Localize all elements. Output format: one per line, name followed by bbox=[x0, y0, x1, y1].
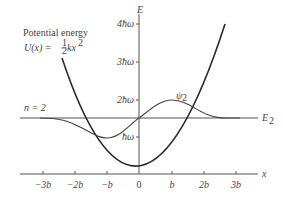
svg-text:−3b: −3b bbox=[35, 179, 52, 190]
svg-text:2: 2 bbox=[269, 115, 274, 126]
svg-text:−b: −b bbox=[101, 179, 113, 190]
svg-text:kx: kx bbox=[67, 42, 76, 53]
x-axis-label: x bbox=[261, 168, 267, 179]
svg-text:4ħω: 4ħω bbox=[117, 18, 134, 29]
potential-curve bbox=[62, 24, 225, 166]
x-tick-labels: −3b −2b −b 0 b 2b 3b bbox=[35, 179, 241, 190]
e-axis-label: E bbox=[136, 4, 143, 15]
y-tick-labels: ħω 2ħω 3ħω 4ħω bbox=[116, 18, 134, 142]
svg-text:2: 2 bbox=[182, 92, 187, 103]
harmonic-oscillator-diagram: Potential energy U(x) = 1 2 kx 2 n = 2 ψ… bbox=[0, 0, 283, 206]
potential-formula: U(x) = 1 2 kx 2 bbox=[24, 37, 83, 56]
svg-text:ħω: ħω bbox=[122, 131, 134, 142]
svg-text:0: 0 bbox=[137, 179, 142, 190]
svg-text:2b: 2b bbox=[199, 179, 209, 190]
energy-level-label: E bbox=[261, 112, 268, 123]
svg-text:3ħω: 3ħω bbox=[116, 56, 134, 67]
svg-text:U(x) =: U(x) = bbox=[24, 42, 52, 54]
wavefunction-curve bbox=[40, 100, 240, 138]
svg-text:2ħω: 2ħω bbox=[117, 94, 134, 105]
state-label: n = 2 bbox=[24, 102, 46, 113]
svg-text:−2b: −2b bbox=[67, 179, 84, 190]
svg-text:3b: 3b bbox=[230, 179, 241, 190]
svg-text:b: b bbox=[170, 179, 175, 190]
svg-text:2: 2 bbox=[78, 37, 83, 48]
